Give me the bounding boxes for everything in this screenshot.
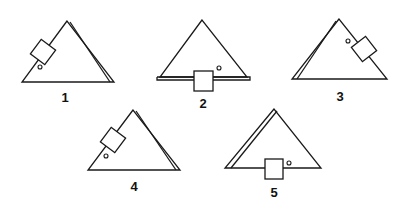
panel-label-2: 2 [199,96,206,111]
circle-4 [104,154,108,158]
panel-label-3: 3 [336,89,343,104]
panel-1: 1 [22,21,114,105]
block-2 [194,71,213,91]
panel-label-5: 5 [270,185,277,200]
figure-canvas: 1 2 3 4 5 [0,0,408,211]
circle-2 [217,66,221,70]
double-line-3 [297,21,336,79]
triangle-2 [160,20,247,77]
circle-5 [287,161,291,165]
panel-2: 2 [157,20,250,111]
block-1 [30,39,55,64]
panel-label-4: 4 [130,179,138,194]
panel-4: 4 [88,110,180,194]
block-5 [265,159,283,179]
double-line-1 [70,22,110,82]
double-line-4 [136,111,176,170]
circle-1 [38,65,42,69]
panel-5: 5 [225,109,321,200]
circle-3 [346,39,350,43]
panel-label-1: 1 [61,90,68,105]
panel-3: 3 [292,19,387,104]
triangle-figure: 1 2 3 4 5 [0,0,408,211]
